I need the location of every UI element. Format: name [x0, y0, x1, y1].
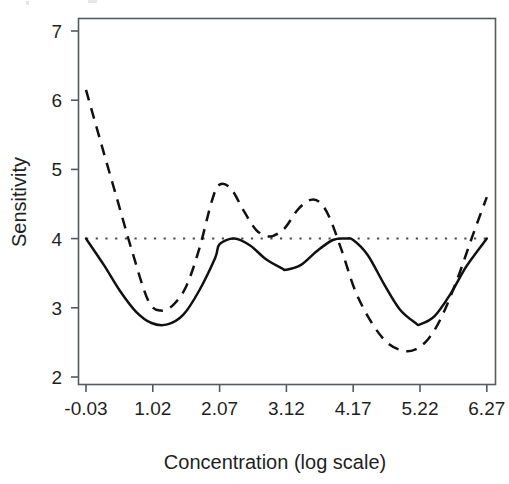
x-axis-tick-labels: -0.03 1.02 2.07 3.12 4.17 5.22 6.27 [64, 398, 505, 419]
x-axis-ticks [86, 385, 487, 393]
x-tick-label: 2.07 [201, 398, 238, 419]
x-tick-label: 1.02 [134, 398, 171, 419]
x-axis-title: Concentration (log scale) [164, 451, 386, 473]
y-tick-label: 4 [51, 229, 62, 250]
y-tick-label: 7 [51, 21, 62, 42]
scan-artifact [26, 0, 97, 5]
plot-frame [79, 19, 496, 385]
x-tick-label: 6.27 [468, 398, 505, 419]
solid-curve-series [86, 238, 487, 325]
y-tick-label: 2 [51, 367, 62, 388]
x-tick-label: -0.03 [64, 398, 107, 419]
sensitivity-concentration-chart: 7 6 5 4 3 2 -0.03 1.02 2.07 3.12 4.17 5.… [0, 0, 509, 484]
figure-container: 7 6 5 4 3 2 -0.03 1.02 2.07 3.12 4.17 5.… [0, 0, 509, 484]
y-axis-title: Sensitivity [8, 157, 30, 247]
x-tick-label: 5.22 [402, 398, 439, 419]
y-tick-label: 3 [51, 298, 62, 319]
y-axis-ticks [71, 31, 79, 377]
x-tick-label: 4.17 [335, 398, 372, 419]
y-axis-tick-labels: 7 6 5 4 3 2 [51, 21, 62, 388]
dashed-curve-series [86, 90, 487, 351]
y-tick-label: 6 [51, 90, 62, 111]
y-tick-label: 5 [51, 159, 62, 180]
x-tick-label: 3.12 [268, 398, 305, 419]
data-series-group [86, 90, 487, 351]
